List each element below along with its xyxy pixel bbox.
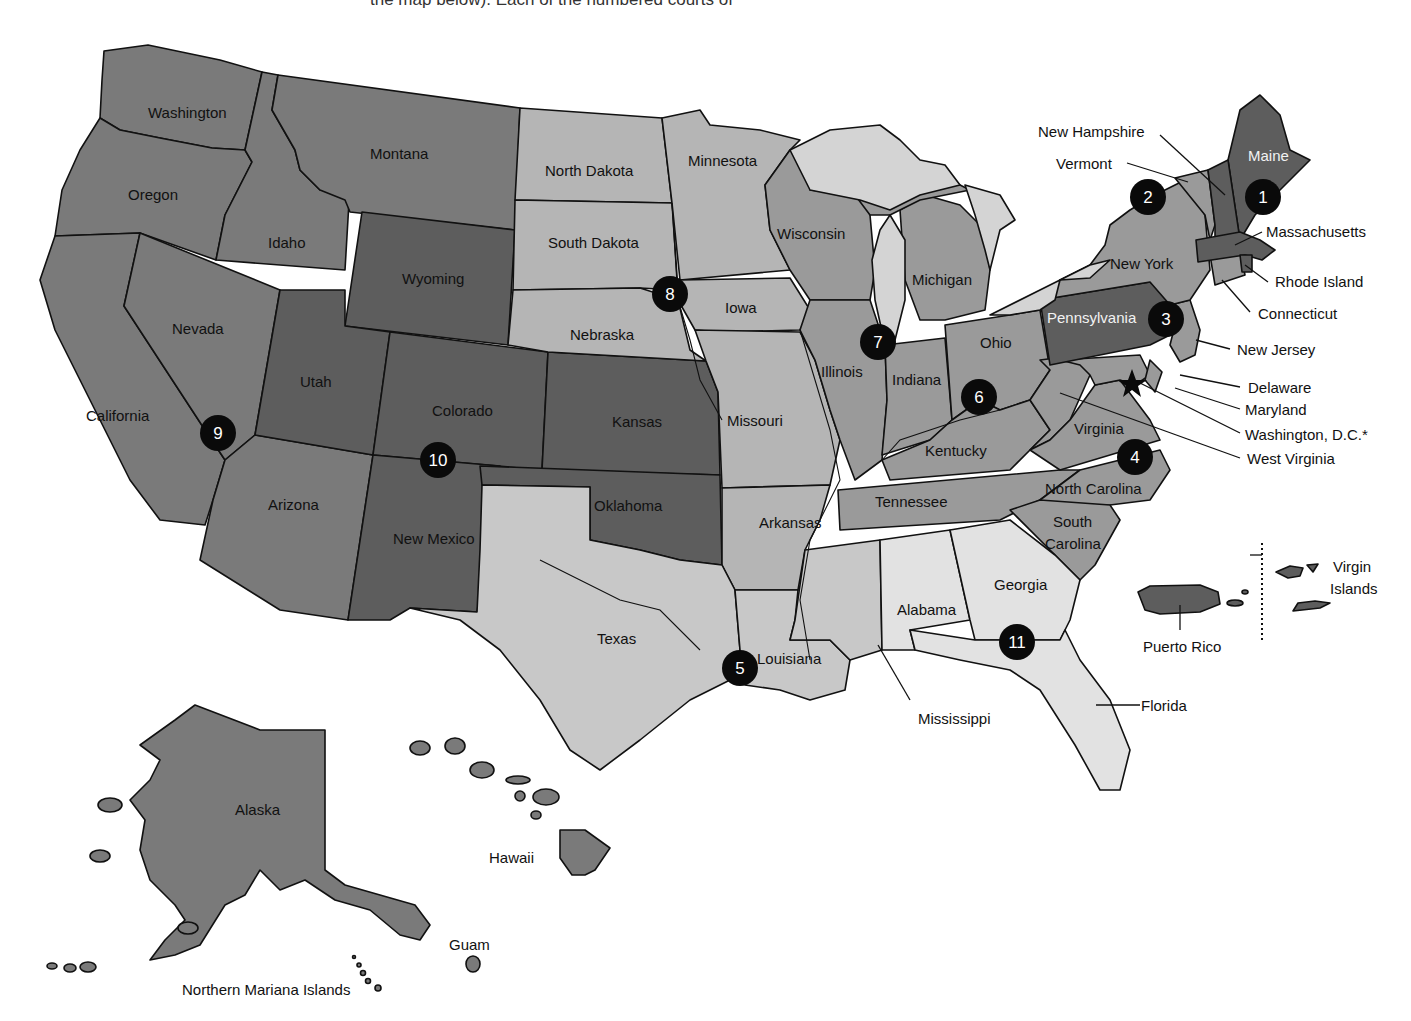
us-circuit-courts-map: Washington Oregon California Idaho Nevad…: [0, 0, 1411, 1021]
label-virginia: Virginia: [1074, 420, 1124, 437]
circuit-marker-6[interactable]: 6: [961, 379, 997, 415]
circuit-marker-3[interactable]: 3: [1148, 301, 1184, 337]
state-alaska[interactable]: [130, 705, 430, 960]
territory-virgin-islands[interactable]: [1276, 564, 1330, 611]
label-louisiana: Louisiana: [757, 650, 822, 667]
label-minnesota: Minnesota: [688, 152, 758, 169]
svg-text:3: 3: [1161, 310, 1170, 329]
svg-text:6: 6: [974, 388, 983, 407]
label-idaho: Idaho: [268, 234, 306, 251]
label-south-carolina-2: Carolina: [1045, 535, 1102, 552]
label-virgin-islands-1: Virgin: [1333, 558, 1371, 575]
label-rhode-island: Rhode Island: [1275, 273, 1363, 290]
circuit-marker-10[interactable]: 10: [420, 442, 456, 478]
label-northern-mariana-islands: Northern Mariana Islands: [182, 981, 350, 998]
label-arkansas: Arkansas: [759, 514, 822, 531]
state-new-york[interactable]: [1040, 180, 1210, 305]
label-vermont: Vermont: [1056, 155, 1113, 172]
label-texas: Texas: [597, 630, 636, 647]
svg-text:8: 8: [665, 285, 674, 304]
circuit-marker-2[interactable]: 2: [1130, 179, 1166, 215]
label-colorado: Colorado: [432, 402, 493, 419]
label-west-virginia: West Virginia: [1247, 450, 1335, 467]
territory-northern-mariana-islands[interactable]: [353, 956, 382, 992]
label-oklahoma: Oklahoma: [594, 497, 663, 514]
svg-text:2: 2: [1143, 188, 1152, 207]
label-montana: Montana: [370, 145, 429, 162]
circuit-marker-1[interactable]: 1: [1245, 179, 1281, 215]
label-new-york: New York: [1110, 255, 1174, 272]
circuit-marker-4[interactable]: 4: [1117, 439, 1153, 475]
label-new-mexico: New Mexico: [393, 530, 475, 547]
svg-text:10: 10: [429, 451, 448, 470]
label-mississippi: Mississippi: [918, 710, 991, 727]
label-iowa: Iowa: [725, 299, 757, 316]
circuit-marker-7[interactable]: 7: [860, 324, 896, 360]
svg-text:9: 9: [213, 424, 222, 443]
label-puerto-rico: Puerto Rico: [1143, 638, 1221, 655]
label-florida: Florida: [1141, 697, 1188, 714]
circuit-marker-5[interactable]: 5: [722, 650, 758, 686]
label-tennessee: Tennessee: [875, 493, 948, 510]
svg-text:7: 7: [873, 333, 882, 352]
label-wisconsin: Wisconsin: [777, 225, 845, 242]
svg-text:11: 11: [1008, 633, 1026, 652]
svg-text:5: 5: [735, 659, 744, 678]
label-california: California: [86, 407, 150, 424]
label-south-carolina-1: South: [1053, 513, 1092, 530]
label-nebraska: Nebraska: [570, 326, 635, 343]
pr-island: [1227, 600, 1243, 606]
label-arizona: Arizona: [268, 496, 320, 513]
label-delaware: Delaware: [1248, 379, 1311, 396]
territory-puerto-rico[interactable]: [1138, 585, 1220, 614]
circuit-marker-9[interactable]: 9: [200, 415, 236, 451]
label-south-dakota: South Dakota: [548, 234, 640, 251]
label-north-carolina: North Carolina: [1045, 480, 1142, 497]
territory-guam[interactable]: [466, 956, 480, 972]
label-north-dakota: North Dakota: [545, 162, 634, 179]
state-maine[interactable]: [1228, 95, 1310, 240]
label-kentucky: Kentucky: [925, 442, 987, 459]
circuit-marker-11[interactable]: 11: [999, 624, 1035, 660]
label-indiana: Indiana: [892, 371, 942, 388]
label-kansas: Kansas: [612, 413, 662, 430]
circuit-marker-8[interactable]: 8: [652, 276, 688, 312]
label-illinois: Illinois: [821, 363, 863, 380]
label-nevada: Nevada: [172, 320, 224, 337]
label-utah: Utah: [300, 373, 332, 390]
label-maryland: Maryland: [1245, 401, 1307, 418]
label-ohio: Ohio: [980, 334, 1012, 351]
label-washington-dc: Washington, D.C.*: [1245, 426, 1368, 443]
label-new-hampshire: New Hampshire: [1038, 123, 1145, 140]
label-hawaii: Hawaii: [489, 849, 534, 866]
label-washington: Washington: [148, 104, 227, 121]
label-wyoming: Wyoming: [402, 270, 464, 287]
label-georgia: Georgia: [994, 576, 1048, 593]
label-maine: Maine: [1248, 147, 1289, 164]
svg-text:1: 1: [1258, 188, 1267, 207]
state-colorado[interactable]: [373, 332, 548, 470]
svg-text:4: 4: [1130, 448, 1139, 467]
label-pennsylvania: Pennsylvania: [1047, 309, 1137, 326]
pr-islet: [1242, 590, 1248, 594]
state-north-dakota[interactable]: [515, 108, 672, 203]
label-guam: Guam: [449, 936, 490, 953]
label-virgin-islands-2: Islands: [1330, 580, 1378, 597]
label-michigan: Michigan: [912, 271, 972, 288]
label-oregon: Oregon: [128, 186, 178, 203]
label-alaska: Alaska: [235, 801, 281, 818]
label-alabama: Alabama: [897, 601, 957, 618]
label-new-jersey: New Jersey: [1237, 341, 1316, 358]
label-missouri: Missouri: [727, 412, 783, 429]
state-arizona[interactable]: [200, 435, 373, 620]
label-massachusetts: Massachusetts: [1266, 223, 1366, 240]
label-connecticut: Connecticut: [1258, 305, 1338, 322]
